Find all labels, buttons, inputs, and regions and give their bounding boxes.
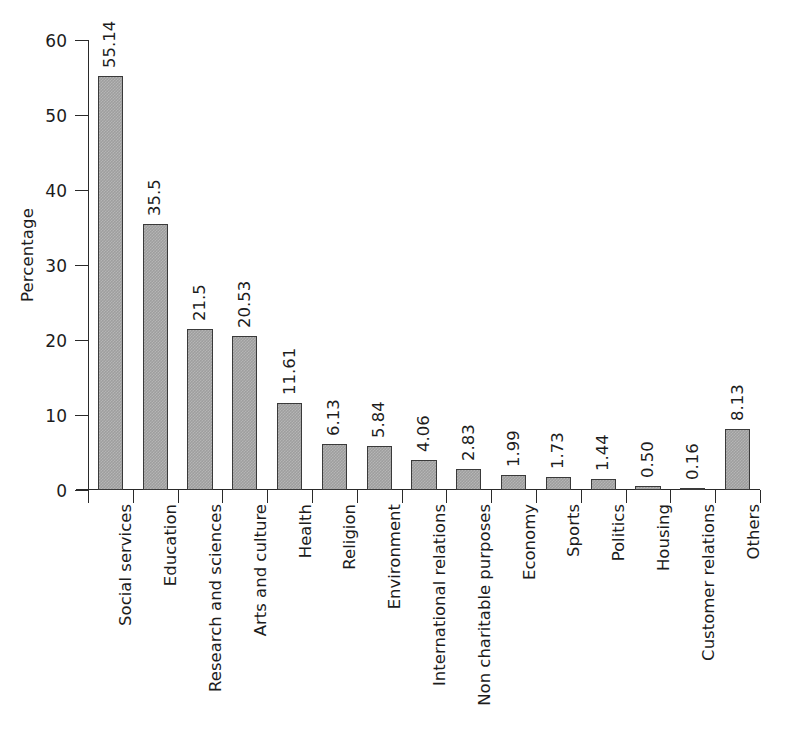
category-label-text: Economy — [520, 504, 539, 580]
y-axis-tick-label: 10 — [45, 406, 67, 426]
category-label-text: Arts and culture — [251, 504, 270, 636]
bar-value-label: 11.61 — [280, 348, 299, 395]
bar-chart-figure: Percentage 0102030405060 55.1435.521.520… — [0, 0, 803, 738]
x-axis-category-label: Religion — [340, 438, 359, 504]
category-label-text: Non charitable purposes — [475, 504, 494, 706]
y-axis-tick-label: 40 — [45, 181, 67, 201]
y-axis-tick: 10 — [75, 415, 88, 416]
x-axis-category-label: Housing — [654, 437, 673, 504]
x-axis-category-label: Non charitable purposes — [475, 302, 494, 504]
x-axis-category-label: Arts and culture — [251, 372, 270, 504]
x-axis-category-label: Economy — [520, 428, 539, 504]
x-axis-category-label: International relations — [430, 322, 449, 504]
category-label-text: Social services — [116, 504, 135, 626]
category-label-text: Housing — [654, 504, 673, 571]
y-axis-tick: 0 — [75, 490, 88, 491]
bar-value-label: 8.13 — [728, 384, 747, 421]
category-label-text: Education — [161, 504, 180, 586]
x-axis-category-label: Sports — [564, 451, 583, 504]
category-label-text: Sports — [564, 504, 583, 557]
bar-value-label: 6.13 — [324, 399, 343, 436]
category-label-text: Religion — [340, 504, 359, 570]
category-label-text: Politics — [609, 504, 628, 561]
category-label-text: Environment — [385, 504, 404, 609]
y-axis-tick-label: 0 — [56, 481, 67, 501]
x-axis-category-label: Environment — [385, 399, 404, 504]
y-axis-label: Percentage — [18, 208, 37, 302]
y-axis-tick-label: 50 — [45, 106, 67, 126]
y-axis-tick-label: 20 — [45, 331, 67, 351]
category-label-text: Health — [296, 504, 315, 558]
x-axis-category-label: Research and sciences — [206, 316, 225, 504]
y-axis-tick: 60 — [75, 40, 88, 41]
category-label-text: Others — [744, 504, 763, 559]
y-axis-label-container: Percentage — [14, 175, 40, 335]
x-axis-category-label: Politics — [609, 447, 628, 504]
y-axis-tick: 30 — [75, 265, 88, 266]
y-axis-tick: 50 — [75, 115, 88, 116]
bar-value-label: 20.53 — [235, 281, 254, 328]
x-axis-tick — [88, 490, 89, 503]
category-label-text: Customer relations — [699, 504, 718, 661]
y-axis-tick-label: 30 — [45, 256, 67, 276]
x-axis-category-label: Others — [744, 449, 763, 504]
bar-value-label: 55.14 — [100, 21, 119, 68]
y-axis-tick-label: 60 — [45, 31, 67, 51]
y-axis-line — [88, 40, 89, 490]
y-axis-tick: 40 — [75, 190, 88, 191]
plot-area: 0102030405060 55.1435.521.520.5311.616.1… — [88, 40, 760, 490]
x-axis-category-label: Social services — [116, 382, 135, 504]
bar-value-label: 35.5 — [145, 179, 164, 216]
category-label-text: International relations — [430, 504, 449, 686]
x-axis-category-label: Health — [296, 450, 315, 504]
category-label-text: Research and sciences — [206, 504, 225, 692]
x-axis-category-label: Customer relations — [699, 347, 718, 504]
y-axis-tick: 20 — [75, 340, 88, 341]
x-axis-category-label: Education — [161, 422, 180, 504]
